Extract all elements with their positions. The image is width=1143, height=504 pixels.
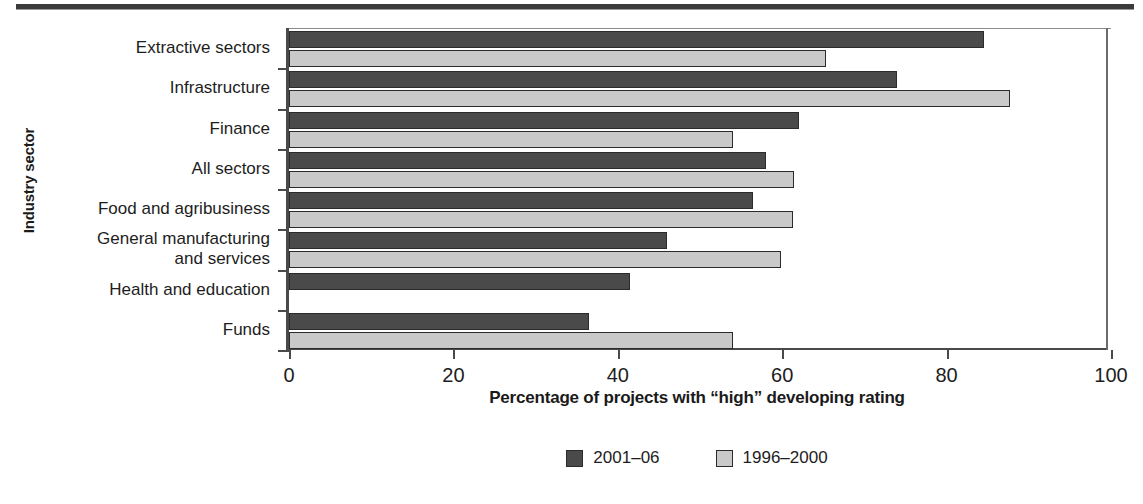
y-axis-category-label: Funds bbox=[223, 320, 270, 340]
x-axis-tick-label: 20 bbox=[442, 364, 464, 387]
x-axis-tick bbox=[289, 350, 291, 359]
y-axis-category-label: Infrastructure bbox=[170, 78, 270, 98]
bar bbox=[289, 313, 589, 330]
y-axis-tick bbox=[278, 229, 289, 231]
x-axis-tick bbox=[618, 350, 620, 359]
y-axis-tick bbox=[278, 189, 289, 191]
bar bbox=[289, 90, 1010, 107]
chart-legend: 2001–061996–2000 bbox=[286, 448, 1108, 468]
legend-item: 2001–06 bbox=[566, 448, 659, 468]
bar bbox=[289, 171, 794, 188]
y-axis-tick bbox=[278, 350, 289, 352]
x-axis-tick-label: 0 bbox=[283, 364, 294, 387]
x-axis-title: Percentage of projects with “high” devel… bbox=[286, 388, 1108, 408]
x-axis-tick-label: 60 bbox=[771, 364, 793, 387]
y-axis-tick bbox=[278, 310, 289, 312]
bar bbox=[289, 112, 799, 129]
y-axis-category-label: Food and agribusiness bbox=[98, 199, 270, 219]
x-axis-tick-label: 80 bbox=[935, 364, 957, 387]
bar bbox=[289, 31, 984, 48]
bar bbox=[289, 131, 733, 148]
bar bbox=[289, 71, 897, 88]
x-axis-tick bbox=[782, 350, 784, 359]
x-axis-tick-label: 40 bbox=[607, 364, 629, 387]
bar bbox=[289, 211, 793, 228]
figure-root: Industry sector Extractive sectorsInfras… bbox=[0, 0, 1143, 504]
x-axis-tick bbox=[947, 350, 949, 359]
y-axis-category-labels: Extractive sectorsInfrastructureFinanceA… bbox=[40, 28, 278, 350]
y-axis-category-label: General manufacturing and services bbox=[97, 229, 270, 269]
legend-item: 1996–2000 bbox=[716, 448, 828, 468]
y-axis-category-label: Extractive sectors bbox=[136, 38, 270, 58]
y-axis-tick bbox=[278, 68, 289, 70]
plot-area: 020406080100 bbox=[286, 28, 1108, 350]
x-axis-tick bbox=[1111, 350, 1113, 359]
bar bbox=[289, 50, 826, 67]
x-axis-tick-label: 100 bbox=[1094, 364, 1127, 387]
header-rule bbox=[16, 4, 1134, 10]
legend-label: 1996–2000 bbox=[743, 448, 828, 468]
x-axis-tick bbox=[453, 350, 455, 359]
y-axis-category-label: All sectors bbox=[192, 159, 270, 179]
y-axis-tick bbox=[278, 149, 289, 151]
plot-frame-right bbox=[1106, 28, 1108, 350]
legend-swatch-icon bbox=[566, 450, 583, 467]
bar bbox=[289, 152, 766, 169]
bar bbox=[289, 251, 781, 268]
y-axis-tick bbox=[278, 109, 289, 111]
y-axis-title: Industry sector bbox=[20, 101, 37, 261]
legend-label: 2001–06 bbox=[593, 448, 659, 468]
y-axis-category-label: Health and education bbox=[109, 280, 270, 300]
y-axis-category-label: Finance bbox=[210, 119, 270, 139]
bar bbox=[289, 332, 733, 349]
bar bbox=[289, 232, 667, 249]
bar bbox=[289, 273, 630, 290]
y-axis-tick bbox=[278, 270, 289, 272]
bar bbox=[289, 192, 753, 209]
legend-swatch-icon bbox=[716, 450, 733, 467]
plot-frame-top bbox=[289, 28, 1111, 29]
